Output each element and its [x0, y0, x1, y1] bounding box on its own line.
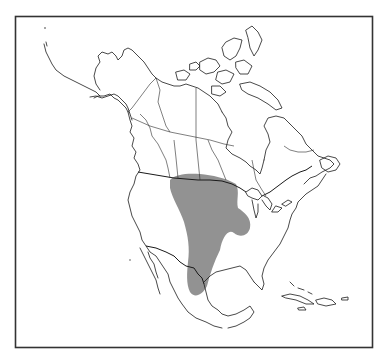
labrador-coast-outline — [290, 124, 334, 184]
jamaica-outline — [298, 307, 306, 310]
ontario-quebec-boundary — [252, 160, 266, 196]
bahamas-outline — [290, 282, 312, 294]
species-range-area — [170, 174, 250, 296]
alberta-saskatchewan-boundary — [174, 140, 178, 178]
hudson-bay-outline — [222, 112, 290, 174]
cuba-outline — [282, 294, 314, 304]
alaska-outline — [44, 42, 156, 112]
arctic-islands-outline — [176, 38, 282, 110]
gulf-coast-outline — [204, 266, 254, 328]
island-dot — [129, 259, 130, 260]
arctic-coastline — [156, 78, 222, 112]
manitoba-ontario-boundary — [208, 140, 226, 180]
island-dot — [44, 27, 46, 29]
alaska-canada-border — [128, 78, 156, 112]
alaska-south-coast — [90, 94, 132, 120]
atlantic-coastline — [254, 174, 326, 290]
yukon-nwt-boundary — [156, 78, 170, 132]
puerto-rico-outline — [342, 297, 348, 300]
range-map — [0, 0, 384, 362]
newfoundland-outline — [320, 156, 340, 172]
hispaniola-outline — [316, 298, 336, 306]
greenland-outline — [246, 26, 262, 56]
baja-california-outline — [140, 248, 160, 294]
quebec-labrador-boundary — [284, 146, 314, 152]
map-svg — [0, 0, 384, 362]
